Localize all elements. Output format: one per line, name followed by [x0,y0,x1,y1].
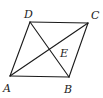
vertex-label-d: D [23,8,33,21]
segment-bc [69,23,88,77]
vertex-label-a: A [2,82,11,95]
segment-ab [10,76,69,77]
segment-cd [30,22,88,23]
vertex-label-c: C [91,9,100,22]
intersection-label-e: E [59,47,68,60]
vertex-label-b: B [63,83,72,96]
segment-da [10,22,30,76]
segments [10,22,88,77]
parallelogram-diagram: A B C D E [0,0,103,98]
